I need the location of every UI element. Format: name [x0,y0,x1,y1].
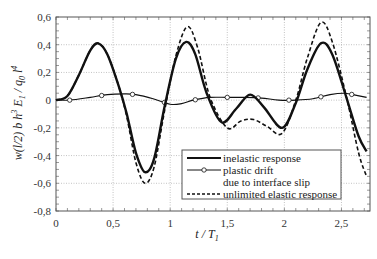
y-tick-label: -0,2 [34,122,51,134]
chart-figure: 00,511,522,5 0,60,40,20-0,2-0,4-0,6-0,8 … [0,0,377,259]
y-tick-label: -0,4 [34,150,52,162]
y-tick-label: -0,8 [34,205,52,217]
legend-marker-circle-icon [202,168,206,172]
legend-label-elastic: unlimited elastic response [223,188,337,200]
marker-circle-icon [130,92,134,96]
x-tick-label: 2,5 [335,217,349,229]
y-axis-title: w(l/2) b h3 E1 / q0 l4 [10,66,27,161]
legend-label-plastic-cont: due to interface slip [223,176,311,188]
x-axis-title: t / T1 [195,227,218,243]
marker-circle-icon [319,95,323,99]
marker-circle-icon [68,98,72,102]
marker-circle-icon [193,98,197,102]
y-tick-label: 0 [46,94,52,106]
legend-label-inelastic: inelastic response [223,152,301,164]
x-tick-label: 2 [282,217,288,229]
y-tick-labels: 0,60,40,20-0,2-0,4-0,6-0,8 [34,11,52,217]
x-tick-label: 1 [167,217,173,229]
legend-label-plastic: plastic drift [223,164,273,176]
x-tick-label: 1,5 [220,217,234,229]
y-tick-label: -0,6 [34,177,52,189]
marker-circle-icon [287,98,291,102]
legend: inelastic response plastic drift due to … [182,150,341,200]
y-tick-label: 0,4 [37,39,51,51]
y-tick-label: 0,2 [37,66,51,78]
marker-circle-icon [350,92,354,96]
marker-circle-icon [99,93,103,97]
x-tick-label: 0,5 [106,217,120,229]
marker-circle-icon [225,95,229,99]
x-tick-label: 0 [53,217,59,229]
y-tick-label: 0,6 [37,11,51,23]
